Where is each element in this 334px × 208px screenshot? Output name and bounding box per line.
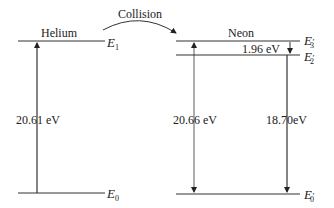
neon-gap-label: 1.96 eV <box>242 43 280 55</box>
neon-e0-label: E′0 <box>304 188 314 206</box>
neon-excitation-label: 20.66 eV <box>173 114 217 126</box>
collision-label: Collision <box>118 8 162 20</box>
helium-e1-label: E1 <box>107 36 119 54</box>
helium-e0-label: E0 <box>107 187 119 205</box>
neon-emission-label: 18.70eV <box>266 114 307 126</box>
helium-energy-label: 20.61 eV <box>16 114 60 126</box>
collision-arrow <box>103 21 176 33</box>
helium-label: Helium <box>41 27 77 39</box>
neon-e2-label: E′2 <box>304 50 314 68</box>
neon-label: Neon <box>228 27 254 39</box>
